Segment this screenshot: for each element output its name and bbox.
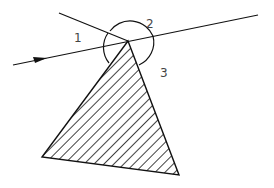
angle-label-2: 2 xyxy=(146,18,154,30)
incident-ray xyxy=(13,15,258,65)
angle-label-3: 3 xyxy=(160,67,168,79)
upper-line xyxy=(59,13,128,41)
prism-diagram xyxy=(0,0,274,188)
angle-arc-1 xyxy=(103,33,109,63)
hatched-triangle xyxy=(42,41,179,175)
angle-label-1: 1 xyxy=(74,32,82,44)
angle-arc-3 xyxy=(139,36,154,65)
arrow-head-icon xyxy=(33,57,47,63)
